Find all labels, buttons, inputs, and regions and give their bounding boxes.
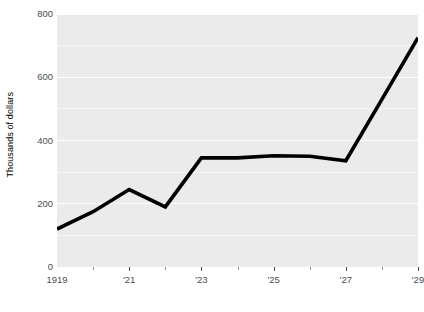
x-axis-tick-label: '29 [412,275,424,285]
x-axis-major-tick [346,267,347,271]
y-axis-title: Thousands of dollars [2,0,18,270]
x-axis-tick-label: '21 [123,275,135,285]
x-axis-tick-label: '23 [195,275,207,285]
y-axis-tick-label: 800 [25,9,53,19]
x-axis-major-tick [274,267,275,271]
x-axis-minor-tick [238,267,239,270]
y-axis-tick-labels: 0200400600800 [20,0,53,312]
x-axis-minor-tick [382,267,383,270]
data-line-series [57,14,418,267]
x-axis-tick-label: '27 [340,275,352,285]
y-axis-tick-label: 0 [25,262,53,272]
data-polyline [57,38,418,229]
x-axis-tick-label: 1919 [46,275,67,285]
y-axis-tick-label: 600 [25,73,53,83]
x-axis-major-tick [129,267,130,271]
x-axis-major-tick [201,267,202,271]
plot-panel [57,14,418,267]
x-axis-major-tick [418,267,419,271]
x-axis-tick-label: '25 [267,275,279,285]
x-axis-minor-tick [310,267,311,270]
x-axis-minor-tick [165,267,166,270]
y-axis-tick-label: 200 [25,199,53,209]
x-axis: 1919'21'23'25'27'29 [57,267,418,312]
y-axis-title-label: Thousands of dollars [5,92,15,178]
y-axis-tick-label: 400 [25,136,53,146]
x-axis-minor-tick [93,267,94,270]
